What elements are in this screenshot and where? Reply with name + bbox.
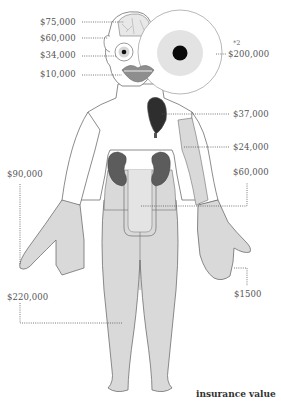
left-hand	[20, 200, 84, 275]
insurance-value-diagram: $75,000 $60,000 $34,000 $10,000 *2 $200,…	[0, 0, 281, 405]
label-heart: $37,000	[233, 110, 269, 119]
label-ear: $60,000	[40, 34, 76, 43]
label-arm: $24,000	[233, 143, 269, 152]
label-right-hand: $90,000	[7, 170, 43, 179]
footnote-marker: *2	[233, 40, 240, 47]
body-illustration	[0, 0, 281, 405]
label-finger: $1500	[234, 290, 262, 299]
diagram-title: insurance value	[196, 390, 276, 399]
label-lips: $10,000	[40, 70, 76, 79]
right-hand	[197, 200, 250, 280]
label-kidneys: $60,000	[233, 168, 269, 177]
label-brain: $75,000	[40, 18, 76, 27]
label-legs: $220,000	[7, 293, 48, 302]
label-eye: $34,000	[40, 51, 76, 60]
label-eye-pair: $200,000	[228, 50, 269, 59]
